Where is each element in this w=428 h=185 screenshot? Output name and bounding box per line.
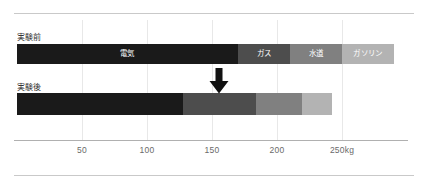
gridline-50 (82, 20, 83, 140)
stacked-bar-after (17, 93, 332, 115)
bar-segment-label: ガス (257, 50, 272, 58)
bar-segment-label: ガソリン (353, 50, 382, 58)
x-tick-250: 250kg (330, 145, 354, 155)
top-divider (14, 13, 414, 14)
bar-segment-gas (183, 93, 256, 115)
bar-segment-gasoline (302, 93, 332, 115)
bar-segment-label: 水道 (309, 50, 324, 58)
x-tick-150: 150 (205, 145, 220, 155)
x-tick-50: 50 (77, 145, 87, 155)
gridline-200 (277, 20, 278, 140)
gridline-250 (342, 20, 343, 140)
down-arrow-icon (206, 68, 232, 94)
stacked-bar-before: 電気ガス水道ガソリン (17, 44, 394, 64)
series-label-after: 実験後 (17, 81, 42, 92)
bottom-divider (14, 175, 414, 176)
gridline-100 (147, 20, 148, 140)
x-tick-100: 100 (140, 145, 155, 155)
bar-segment-suido (256, 93, 302, 115)
bar-segment-denki (17, 93, 183, 115)
bar-segment-label: 電気 (120, 50, 135, 58)
x-axis-line (14, 140, 408, 141)
x-tick-200: 200 (270, 145, 285, 155)
series-label-before: 実験前 (17, 31, 42, 42)
bar-segment-gas: ガス (238, 44, 290, 64)
bar-segment-denki: 電気 (17, 44, 238, 64)
bar-segment-gasoline: ガソリン (342, 44, 394, 64)
bar-segment-suido: 水道 (290, 44, 342, 64)
chart-card: 50 100 150 200 250kg 実験前 実験後 電気ガス水道ガソリン (0, 0, 428, 185)
